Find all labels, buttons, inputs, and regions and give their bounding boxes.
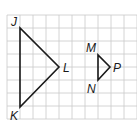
vertex-label-l: L <box>63 61 70 75</box>
diagram-canvas: J K L M N P <box>0 0 137 128</box>
vertex-label-m: M <box>86 41 96 55</box>
triangle-jkl: J K L <box>10 15 70 123</box>
vertex-label-k: K <box>10 109 19 123</box>
triangle-jkl-shape <box>20 28 59 107</box>
vertex-label-p: P <box>113 61 121 75</box>
triangle-mnp: M N P <box>86 41 121 96</box>
vertex-label-n: N <box>87 82 96 96</box>
vertex-label-j: J <box>10 15 18 29</box>
triangle-mnp-shape <box>98 55 110 80</box>
